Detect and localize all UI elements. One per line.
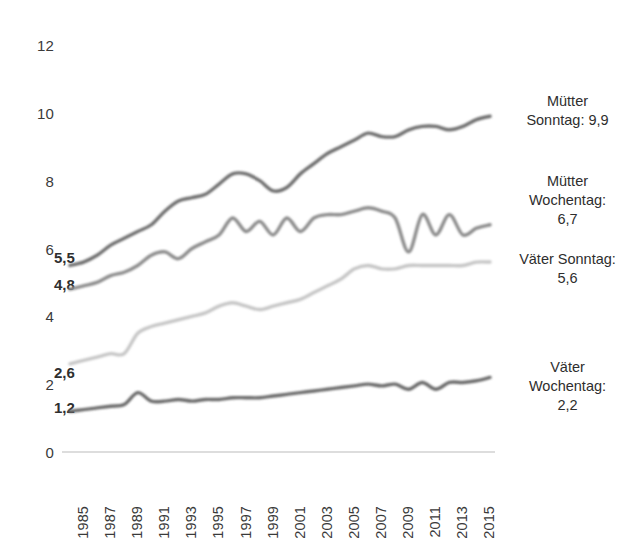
x-axis-tick-2007: 2007	[374, 506, 389, 539]
x-axis-tick-2015: 2015	[482, 506, 497, 539]
x-axis-tick-1997: 1997	[239, 506, 254, 539]
x-axis-tick-2011: 2011	[428, 506, 443, 538]
x-axis-tick-1989: 1989	[130, 506, 145, 539]
x-axis-tick-1995: 1995	[211, 506, 226, 539]
series-line-2	[70, 262, 490, 364]
series-label-group: Mütter Sonntag: 9,9Mütter Wochentag: 6,7…	[498, 0, 637, 540]
x-axis-tick-2001: 2001	[293, 506, 308, 539]
series-label-2: Väter Sonntag: 5,6	[498, 250, 637, 288]
series-line-0	[70, 116, 490, 265]
x-axis-tick-2009: 2009	[401, 506, 416, 539]
x-axis-tick-2005: 2005	[347, 506, 362, 539]
series-line-1	[70, 208, 490, 289]
x-axis-tick-1999: 1999	[266, 506, 281, 539]
x-axis-tick-1985: 1985	[76, 506, 91, 539]
x-axis-tick-1991: 1991	[157, 506, 172, 539]
line-chart: 024681012 5,54,82,61,2 19851987198919911…	[0, 0, 637, 540]
x-axis-tick-2003: 2003	[320, 506, 335, 539]
series-label-1: Mütter Wochentag: 6,7	[498, 172, 637, 229]
x-axis-tick-1987: 1987	[103, 506, 118, 539]
series-label-3: Väter Wochentag: 2,2	[498, 358, 637, 415]
series-line-3	[70, 377, 490, 411]
x-axis-tick-1993: 1993	[184, 506, 199, 539]
series-label-0: Mütter Sonntag: 9,9	[498, 92, 637, 130]
x-axis-tick-2013: 2013	[455, 506, 470, 539]
